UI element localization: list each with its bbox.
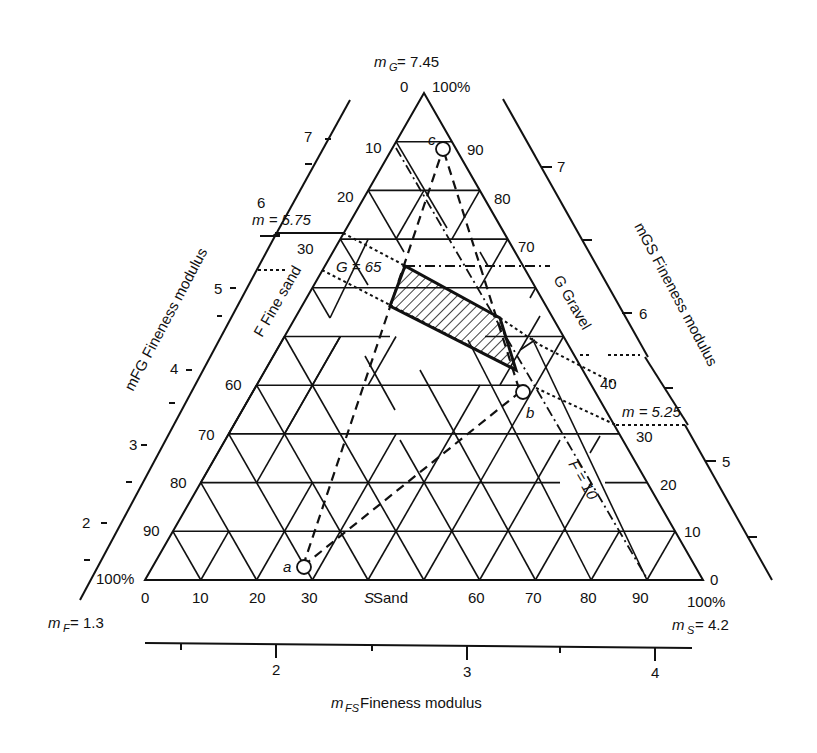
mfg-ticks: 2 3 4 5 6 7 xyxy=(82,128,312,531)
outer-axis-mGS xyxy=(503,99,772,580)
mfs-axis-m: m xyxy=(331,694,344,711)
svg-text:4: 4 xyxy=(170,360,178,377)
svg-text:20: 20 xyxy=(337,188,354,205)
svg-text:4: 4 xyxy=(651,664,659,681)
svg-text:3: 3 xyxy=(463,663,471,680)
outer-axis-mFG xyxy=(80,100,350,600)
point-c xyxy=(436,142,450,156)
m525-label: m = 5.25 xyxy=(622,403,681,420)
svg-text:90: 90 xyxy=(467,141,484,158)
svg-text:30: 30 xyxy=(636,428,653,445)
svg-text:20: 20 xyxy=(249,589,266,606)
mfs-ticks: 2 3 4 xyxy=(272,661,659,681)
mf-label-val: = 1.3 xyxy=(70,614,104,631)
mg-label-m: m xyxy=(374,53,387,70)
ms-label-sub: S xyxy=(687,624,695,636)
sand-label: Sand xyxy=(373,589,408,606)
svg-text:60: 60 xyxy=(468,589,485,606)
svg-text:90: 90 xyxy=(143,522,160,539)
point-a xyxy=(297,560,311,574)
apex-100-label: 100% xyxy=(432,78,470,95)
mfs-axis-text: Fineness modulus xyxy=(360,694,482,711)
mg-label-val: = 7.45 xyxy=(397,53,439,70)
svg-text:5: 5 xyxy=(722,453,730,470)
svg-text:5: 5 xyxy=(214,280,222,297)
svg-text:3: 3 xyxy=(129,436,137,453)
bottom-edge-ticks: 0 10 20 30 60 70 80 90 100% xyxy=(141,589,725,610)
ternary-chart: m G = 7.45 0 100% 10 20 30 60 70 80 90 1… xyxy=(0,0,817,753)
point-c-label: c xyxy=(428,131,436,148)
m575-label: m = 5.75 xyxy=(252,211,311,228)
f10-label: F = 10 xyxy=(565,457,601,503)
point-b xyxy=(516,385,530,399)
svg-text:10: 10 xyxy=(684,523,701,540)
point-b-label: b xyxy=(526,404,534,421)
svg-text:40: 40 xyxy=(600,375,617,392)
svg-text:80: 80 xyxy=(170,474,187,491)
svg-text:70: 70 xyxy=(525,589,542,606)
mf-label-m: m xyxy=(48,614,61,631)
f10-line xyxy=(396,148,646,577)
svg-text:30: 30 xyxy=(301,589,318,606)
svg-text:20: 20 xyxy=(660,476,677,493)
svg-text:80: 80 xyxy=(494,190,511,207)
svg-text:6: 6 xyxy=(639,305,647,322)
svg-text:2: 2 xyxy=(82,514,90,531)
g65-label: G = 65 xyxy=(336,258,382,275)
svg-text:0: 0 xyxy=(710,571,718,588)
grid-diag-down xyxy=(173,142,647,580)
shaded-region xyxy=(390,266,516,370)
svg-text:90: 90 xyxy=(632,589,649,606)
svg-text:100%: 100% xyxy=(96,570,134,587)
outer-axis-mFS xyxy=(145,643,692,661)
svg-text:30: 30 xyxy=(297,240,314,257)
ms-label-val: = 4.2 xyxy=(695,616,729,633)
mfg-axis-label: mFG Fineness modulus xyxy=(121,245,211,394)
svg-text:7: 7 xyxy=(304,128,312,145)
svg-text:60: 60 xyxy=(225,376,242,393)
mgs-axis-label: mGS Fineness modulus xyxy=(631,219,721,368)
svg-text:10: 10 xyxy=(365,139,382,156)
svg-text:2: 2 xyxy=(272,661,280,678)
svg-text:80: 80 xyxy=(580,589,597,606)
ms-label-m: m xyxy=(672,616,685,633)
svg-text:100%: 100% xyxy=(687,593,725,610)
svg-text:70: 70 xyxy=(198,426,215,443)
apex-zero-label: 0 xyxy=(400,78,408,95)
mfs-axis-sub: FS xyxy=(345,702,360,714)
fine-sand-label: F Fine sand xyxy=(250,262,304,339)
svg-text:70: 70 xyxy=(518,238,535,255)
svg-text:7: 7 xyxy=(557,158,565,175)
svg-text:10: 10 xyxy=(192,589,209,606)
point-a-label: a xyxy=(283,558,291,575)
svg-text:0: 0 xyxy=(141,589,149,606)
triangle-outline xyxy=(145,93,703,580)
svg-text:6: 6 xyxy=(257,194,265,211)
